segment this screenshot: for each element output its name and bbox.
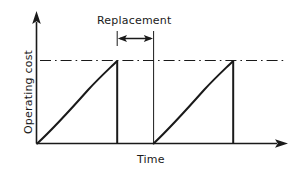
operating-cost-curve-1 [37, 61, 117, 143]
operating-cost-replacement-diagram: Operating cost Time Replacement [0, 0, 301, 177]
replacement-interval-arrow [118, 35, 153, 42]
y-axis-label: Operating cost [22, 50, 35, 134]
x-axis-label: Time [137, 153, 165, 166]
operating-cost-curve-2 [154, 61, 233, 143]
x-axis [37, 139, 289, 148]
replacement-annotation-label: Replacement [97, 14, 171, 27]
